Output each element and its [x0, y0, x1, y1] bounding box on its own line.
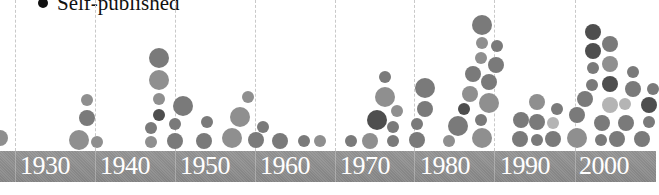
bubble-60 — [577, 91, 593, 107]
legend-item-self-published: Self-published — [38, 0, 179, 15]
decade-label-1960: 1960 — [260, 150, 310, 182]
bubble-69 — [594, 115, 610, 131]
bubble-68 — [602, 97, 618, 113]
bubble-44 — [491, 40, 503, 52]
bubble-5 — [149, 48, 169, 68]
bubble-43 — [472, 15, 492, 35]
tick-1950 — [175, 151, 176, 182]
bubble-15 — [196, 133, 212, 149]
bubble-29 — [391, 105, 403, 117]
bubble-10 — [145, 136, 157, 148]
bubble-23 — [314, 135, 326, 147]
bubble-71 — [609, 131, 625, 147]
bubble-22 — [298, 135, 310, 147]
gridline-1940 — [95, 0, 96, 151]
bubble-6 — [149, 70, 169, 90]
bubble-78 — [641, 97, 657, 113]
bubble-17 — [230, 107, 250, 127]
bubble-24 — [345, 135, 357, 147]
bubble-45 — [488, 57, 504, 73]
bubble-26 — [367, 110, 387, 130]
tick-2000 — [575, 151, 576, 182]
bubble-75 — [625, 81, 641, 97]
bubble-36 — [443, 135, 455, 147]
bubble-27 — [375, 87, 395, 107]
bubble-12 — [169, 118, 181, 130]
bubble-46 — [481, 74, 497, 90]
bubble-49 — [472, 128, 492, 148]
bubble-0 — [0, 130, 8, 146]
bubble-9 — [145, 122, 157, 134]
bubble-34 — [417, 101, 433, 117]
bubble-13 — [167, 133, 183, 149]
bubble-25 — [362, 133, 378, 149]
tick-1930 — [15, 151, 16, 182]
decade-label-2000: 2000 — [579, 150, 629, 182]
bubble-48 — [475, 114, 487, 126]
decade-label-1980: 1980 — [420, 150, 470, 182]
bubble-73 — [618, 115, 634, 131]
bubble-42 — [476, 37, 488, 49]
tick-1990 — [494, 151, 495, 182]
bubble-19 — [248, 132, 264, 148]
bubble-31 — [387, 135, 399, 147]
decade-label-1930: 1930 — [20, 150, 70, 182]
bubble-2 — [79, 110, 95, 126]
bubble-70 — [595, 134, 607, 146]
bubble-21 — [272, 133, 288, 149]
decade-label-1940: 1940 — [100, 150, 150, 182]
bubble-55 — [547, 117, 559, 129]
bubble-79 — [647, 83, 659, 95]
bubble-28 — [379, 71, 391, 83]
bubble-16 — [222, 128, 242, 148]
legend-label: Self-published — [57, 0, 179, 15]
bubble-57 — [551, 103, 563, 115]
bubble-20 — [257, 121, 269, 133]
decade-label-1950: 1950 — [180, 150, 230, 182]
bubble-41 — [475, 52, 487, 64]
decade-axis-band — [0, 151, 656, 182]
bubble-51 — [512, 131, 528, 147]
tick-1960 — [255, 151, 256, 182]
bubble-63 — [587, 62, 599, 74]
gridline-1930 — [15, 0, 16, 151]
bubble-65 — [602, 36, 618, 52]
bubble-52 — [529, 94, 545, 110]
bubble-62 — [585, 43, 601, 59]
bubble-11 — [173, 96, 193, 116]
bubble-56 — [545, 131, 561, 147]
bubble-35 — [415, 78, 435, 98]
bubble-39 — [462, 86, 478, 102]
decade-label-1990: 1990 — [500, 150, 550, 182]
tick-1940 — [95, 151, 96, 182]
bubble-33 — [411, 118, 423, 130]
bubble-8 — [153, 109, 165, 121]
bubble-38 — [458, 103, 470, 115]
bubble-18 — [242, 91, 254, 103]
bubble-7 — [153, 93, 165, 105]
gridline-1960 — [255, 0, 256, 151]
bubble-59 — [567, 128, 587, 148]
bubble-40 — [465, 66, 481, 82]
bubble-61 — [585, 24, 601, 40]
bubble-30 — [387, 121, 399, 133]
bubble-32 — [409, 132, 425, 148]
bubble-74 — [627, 66, 639, 78]
decade-label-1970: 1970 — [340, 150, 390, 182]
bubble-14 — [201, 116, 213, 128]
bubble-54 — [531, 134, 543, 146]
bubble-50 — [513, 112, 529, 128]
bubble-1 — [69, 130, 89, 150]
bubble-4 — [91, 136, 103, 148]
bubble-64 — [586, 79, 598, 91]
bubble-67 — [602, 76, 618, 92]
tick-1970 — [335, 151, 336, 182]
bubble-77 — [643, 116, 655, 128]
bubble-76 — [634, 131, 650, 147]
bubble-53 — [529, 114, 545, 130]
filled-circle-icon — [38, 0, 48, 8]
bubble-47 — [479, 93, 499, 113]
gridline-1970 — [335, 0, 336, 151]
tick-1980 — [414, 151, 415, 182]
